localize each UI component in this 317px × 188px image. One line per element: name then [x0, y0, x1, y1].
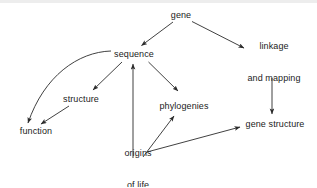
node-origins-label-line1: origins: [124, 148, 151, 159]
node-phylogenies-label: phylogenies: [159, 101, 208, 112]
node-sequence[interactable]: sequence: [114, 28, 154, 81]
edge-gene-to-linkage: [192, 22, 244, 49]
node-function-label: function: [20, 126, 52, 137]
node-origins-of-life[interactable]: origins of life: [124, 127, 151, 187]
node-phylogenies[interactable]: phylogenies: [159, 80, 208, 133]
node-origins-label-line2: of life: [124, 180, 151, 188]
node-gene[interactable]: gene: [171, 0, 191, 41]
node-linkage-label-line2: and mapping: [247, 73, 300, 84]
node-structure[interactable]: structure: [63, 73, 99, 126]
node-linkage-and-mapping[interactable]: linkage and mapping: [247, 20, 300, 104]
node-linkage-label-line1: linkage: [247, 41, 300, 52]
diagram-canvas: gene sequence linkage and mapping struct…: [0, 0, 317, 187]
node-gene-structure[interactable]: gene structure: [246, 98, 305, 151]
node-structure-label: structure: [63, 94, 99, 105]
node-function[interactable]: function: [20, 105, 52, 158]
node-gene-structure-label: gene structure: [246, 119, 305, 130]
node-gene-label: gene: [171, 10, 191, 21]
node-sequence-label: sequence: [114, 49, 154, 60]
